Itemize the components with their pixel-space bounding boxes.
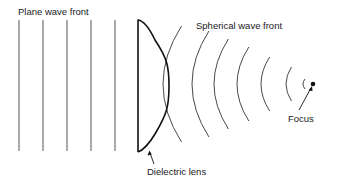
spherical-wave-arcs <box>163 26 305 142</box>
spherical-wave-arc <box>286 67 291 101</box>
focus-pointer-line <box>299 88 311 110</box>
dielectric-lens-label: Dielectric lens <box>147 167 206 177</box>
plane-wave-front-label: Plane wave front <box>18 7 89 17</box>
lens-diagram: Plane wave front Spherical wave front Di… <box>0 0 340 185</box>
lens-arrowhead-icon <box>148 151 152 156</box>
spherical-wave-arc <box>214 39 228 129</box>
diagram-canvas <box>0 0 340 185</box>
spherical-wave-arc <box>237 47 249 121</box>
focus-label: Focus <box>288 114 314 124</box>
focus-point-icon <box>311 82 316 87</box>
focus-arrowhead-icon <box>309 86 313 91</box>
spherical-wave-arc <box>163 26 182 142</box>
spherical-wave-arc <box>303 79 305 89</box>
plane-wave-lines <box>19 20 115 151</box>
spherical-wave-arc <box>192 31 209 137</box>
spherical-wave-arc <box>261 57 270 111</box>
dielectric-lens-shape <box>138 20 169 152</box>
spherical-wave-front-label: Spherical wave front <box>196 21 282 31</box>
